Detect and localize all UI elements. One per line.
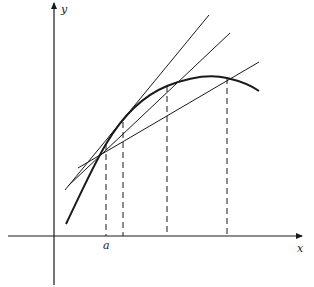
secant-lines [65,15,259,190]
x-axis-label: x [297,242,304,255]
point-a-label: a [103,239,110,252]
secant-middle-line [68,33,230,186]
tangent-like-secant-line [65,15,209,190]
y-axis-label: y [60,3,68,16]
dashed-guide-lines [106,78,227,236]
function-curve [66,76,259,224]
secant-far-line [78,62,259,168]
secant-tangent-diagram: y x a [0,0,314,287]
